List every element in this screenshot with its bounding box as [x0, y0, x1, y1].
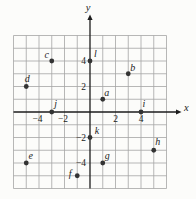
point-label-a: a [104, 87, 109, 98]
point-h [151, 148, 156, 153]
y-tick-label: 2 [81, 82, 86, 92]
point-label-l: l [94, 48, 97, 59]
point-label-h: h [155, 136, 160, 147]
point-f [75, 173, 80, 178]
y-tick-label: 4 [81, 56, 86, 66]
point-j [49, 110, 54, 115]
point-c [49, 59, 54, 64]
point-g [100, 161, 105, 166]
y-tick-label: −2 [76, 133, 86, 143]
x-tick-label: −2 [58, 114, 68, 124]
point-l [88, 59, 93, 64]
y-tick-label: −4 [76, 158, 86, 168]
point-k [88, 135, 93, 140]
point-e [24, 161, 29, 166]
point-label-b: b [130, 62, 135, 73]
x-axis-label: x [183, 102, 189, 113]
point-label-c: c [45, 49, 50, 60]
point-label-g: g [105, 150, 110, 161]
point-label-k: k [95, 125, 100, 136]
x-tick-label: 2 [113, 114, 118, 124]
coordinate-plane-figure: xy−4−22442−2−4abcdefghijkl [0, 0, 196, 199]
point-label-e: e [29, 150, 34, 161]
point-label-i: i [143, 98, 146, 109]
scatter-plot-svg: xy−4−22442−2−4abcdefghijkl [0, 0, 196, 199]
x-tick-label: −4 [32, 114, 42, 124]
point-i [139, 110, 144, 115]
y-axis-label: y [85, 2, 91, 13]
point-d [24, 84, 29, 89]
x-tick-label: 4 [139, 114, 144, 124]
